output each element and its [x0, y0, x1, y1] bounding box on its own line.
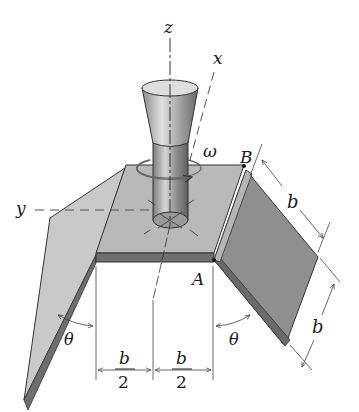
point-a-dot: [212, 258, 216, 262]
point-a-label: A: [190, 269, 204, 289]
omega-label: ω: [203, 141, 217, 161]
theta-left-label: θ: [64, 330, 74, 349]
theta-right-arc: [216, 315, 250, 326]
b-lower-label: b: [312, 316, 324, 337]
x-axis-label: x: [213, 48, 223, 68]
half-right-numerator: b: [176, 348, 187, 368]
half-right-denominator: 2: [176, 372, 187, 392]
z-axis-label: z: [163, 17, 174, 37]
point-b-label: B: [239, 147, 253, 167]
half-left-numerator: b: [119, 348, 130, 368]
y-axis-label: y: [15, 198, 26, 218]
rotating-plate-diagram: z x y ω B A θ θ b b b 2 b 2: [0, 0, 359, 412]
b-upper-label: b: [287, 191, 299, 212]
theta-right-label: θ: [229, 330, 239, 349]
half-left-denominator: 2: [118, 372, 129, 392]
